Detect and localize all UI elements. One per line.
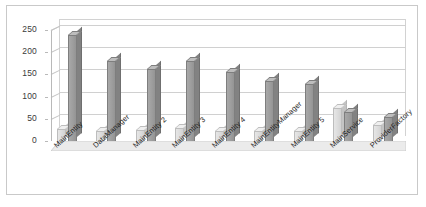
y-axis-tick-label: 100	[11, 92, 37, 101]
y-axis-tick-mark	[45, 30, 48, 31]
y-axis-tick-mark	[45, 74, 48, 75]
y-axis-tick-mark	[45, 52, 48, 53]
y-axis-tick-label: 150	[11, 69, 37, 78]
y-axis-tick-label: 250	[11, 25, 37, 34]
y-axis-tick-label: 50	[11, 114, 37, 123]
category-axis-labels: MainEntityDataManagerMainEntity 2MainEnt…	[51, 143, 411, 198]
bar-cluster	[51, 24, 90, 141]
y-axis-tick-mark	[45, 141, 48, 142]
y-axis-tick-label: 0	[11, 136, 37, 145]
y-axis-tick-mark	[45, 119, 48, 120]
y-axis-tick-label: 200	[11, 47, 37, 56]
chart-page: 250200150100500 MainEntityDataManagerMai…	[0, 0, 426, 207]
chart-outer-frame: 250200150100500 MainEntityDataManagerMai…	[6, 5, 418, 195]
y-axis-tick-mark	[45, 97, 48, 98]
